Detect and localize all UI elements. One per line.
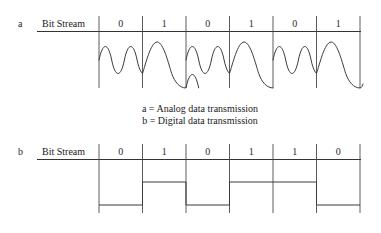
transmission-diagram: a Bit Stream 0 1 0 1 0 1 bbox=[0, 0, 381, 233]
panel-b-bit-5: 0 bbox=[336, 146, 341, 157]
panel-a-bit-3: 1 bbox=[249, 18, 254, 29]
panel-b-letter: b bbox=[18, 146, 23, 157]
panel-a-bit-1: 1 bbox=[162, 18, 167, 29]
panel-a-label-dividers bbox=[99, 16, 360, 32]
panel-a-row-label: Bit Stream bbox=[42, 18, 85, 29]
panel-a-bit-4: 0 bbox=[292, 18, 297, 29]
panel-b-bit-2: 0 bbox=[205, 146, 210, 157]
analog-waveform bbox=[99, 42, 363, 88]
panel-a-bit-2: 0 bbox=[205, 18, 210, 29]
panel-b-label-dividers bbox=[99, 144, 360, 160]
panel-a-bit-0: 0 bbox=[118, 18, 123, 29]
panel-b-bit-3: 1 bbox=[249, 146, 254, 157]
panel-b-row-label: Bit Stream bbox=[42, 146, 85, 157]
panel-b-bit-4: 1 bbox=[292, 146, 297, 157]
panel-a-bit-5: 1 bbox=[336, 18, 341, 29]
panel-a: a Bit Stream 0 1 0 1 0 1 bbox=[18, 16, 363, 88]
digital-waveform bbox=[99, 182, 360, 205]
caption-analog: a = Analog data transmission bbox=[142, 103, 258, 114]
caption-digital: b = Digital data transmission bbox=[142, 115, 258, 126]
panel-b-bit-0: 0 bbox=[118, 146, 123, 157]
figure-captions: a = Analog data transmission b = Digital… bbox=[142, 103, 258, 126]
panel-b: b Bit Stream 0 1 0 1 1 0 bbox=[18, 144, 361, 213]
panel-b-bit-1: 1 bbox=[162, 146, 167, 157]
panel-a-letter: a bbox=[18, 18, 23, 29]
